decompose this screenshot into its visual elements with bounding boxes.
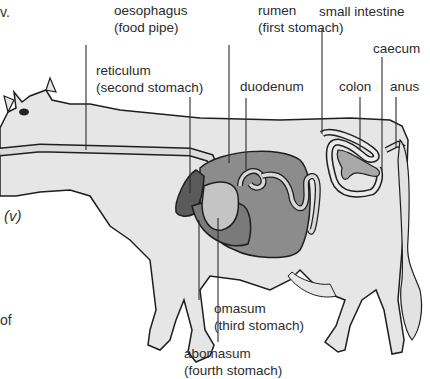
cow-tail — [398, 140, 422, 340]
label-note: (fourth stomach) — [184, 362, 282, 379]
label-abomasum: abomasum (fourth stomach) — [184, 345, 282, 379]
label-omasum: omasum (third stomach) — [214, 300, 304, 334]
label-name: small intestine — [319, 3, 405, 20]
cow-eye — [19, 109, 29, 116]
label-small-intestine: small intestine — [319, 3, 405, 20]
roman-numeral-label: (v) — [4, 207, 22, 224]
label-note: (food pipe) — [114, 19, 188, 36]
label-note: (second stomach) — [96, 79, 203, 96]
label-note: (third stomach) — [214, 317, 304, 334]
label-oesophagus: oesophagus (food pipe) — [114, 2, 188, 36]
label-colon: colon — [339, 78, 371, 95]
label-anus: anus — [390, 78, 419, 95]
label-name: caecum — [373, 40, 420, 57]
label-note: (first stomach) — [258, 19, 344, 36]
label-reticulum: reticulum (second stomach) — [96, 62, 203, 96]
label-name: reticulum — [96, 62, 203, 79]
omasum — [202, 182, 238, 230]
label-name: abomasum — [184, 345, 282, 362]
label-name: omasum — [214, 300, 304, 317]
label-name: duodenum — [240, 78, 304, 95]
label-duodenum: duodenum — [240, 78, 304, 95]
label-name: colon — [339, 78, 371, 95]
label-caecum: caecum — [373, 40, 420, 57]
label-name: oesophagus — [114, 2, 188, 19]
cow-digestive-diagram: oesophagus (food pipe) rumen (first stom… — [0, 0, 430, 379]
text-fragment-bottom: of — [0, 312, 12, 328]
text-fragment-top: v. — [0, 4, 10, 20]
label-name: anus — [390, 78, 419, 95]
